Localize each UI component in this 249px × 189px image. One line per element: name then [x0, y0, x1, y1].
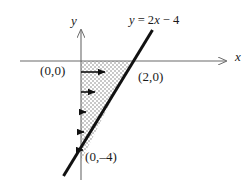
- y-axis-label: y: [71, 14, 77, 27]
- equation-suffix: − 4: [160, 13, 180, 27]
- graph-figure: y x y = 2x − 4 (0,0) (2,0) (0,–4): [0, 0, 249, 189]
- point-label-origin: (0,0): [40, 64, 65, 77]
- line-equation-label: y = 2x − 4: [129, 14, 179, 27]
- x-axis-label: x: [235, 50, 241, 63]
- point-label-x-intercept: (2,0): [138, 70, 163, 83]
- graph-canvas: [0, 0, 249, 189]
- point-label-y-intercept: (0,–4): [85, 150, 117, 163]
- equation-operator: = 2: [135, 13, 155, 27]
